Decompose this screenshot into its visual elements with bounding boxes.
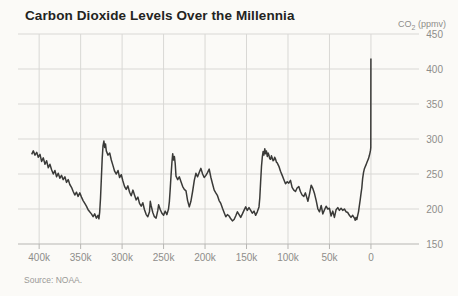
y-tick-label: 200 [413,203,443,216]
y-tick-label: 400 [413,63,443,76]
y-tick-label: 350 [413,98,443,111]
y-tick-label: 300 [413,133,443,146]
x-tick-label: 400k [19,252,59,264]
y-tick-label: 150 [413,238,443,251]
x-tick-label: 300k [102,252,142,264]
x-tick-label: 100k [268,252,308,264]
x-tick-label: 50k [309,252,349,264]
co2-chart-window: Carbon Dioxide Levels Over the Millennia… [0,0,458,296]
y-tick-label: 250 [413,168,443,181]
y-tick-label: 450 [413,28,443,41]
x-tick-label: 0 [351,252,391,264]
source-note: Source: NOAA. [24,275,82,285]
x-tick-label: 150k [227,252,267,264]
x-tick-label: 350k [61,252,101,264]
x-tick-label: 200k [185,252,225,264]
x-tick-label: 250k [144,252,184,264]
